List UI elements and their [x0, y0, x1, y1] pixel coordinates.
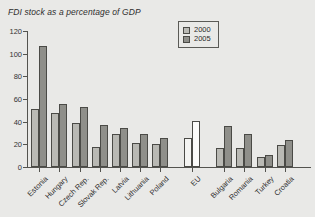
y-tick-label: 100: [9, 50, 22, 58]
bar-2005[interactable]: [80, 107, 88, 167]
x-tick: [192, 167, 193, 172]
bar-2005[interactable]: [265, 155, 273, 167]
bar-2000[interactable]: [92, 147, 100, 167]
bar-2000[interactable]: [216, 148, 224, 167]
x-tick: [80, 167, 81, 172]
chart-title: FDI stock as a percentage of GDP: [8, 7, 141, 17]
y-tick-label: 60: [14, 96, 22, 104]
bar-group: [91, 31, 109, 167]
x-tick: [100, 167, 101, 172]
bar-group: [50, 31, 68, 167]
legend-swatch-2005: [183, 36, 190, 43]
x-tick: [59, 167, 60, 172]
x-tick-label: Turkey: [253, 175, 275, 197]
x-tick-label: Poland: [149, 175, 171, 197]
bar-2000[interactable]: [184, 138, 192, 167]
legend-item-2005[interactable]: 2005: [183, 35, 211, 43]
x-tick-label: Croatia: [273, 175, 296, 198]
bar-2000[interactable]: [112, 134, 120, 167]
bar-2005[interactable]: [120, 128, 128, 167]
bar-2000[interactable]: [257, 157, 265, 167]
bar-2005[interactable]: [192, 121, 200, 167]
chart-legend: 2000 2005: [178, 21, 219, 48]
y-tick-label: 40: [14, 118, 22, 126]
bar-2005[interactable]: [285, 140, 293, 167]
bar-group: [276, 31, 294, 167]
x-axis-line: [27, 167, 311, 168]
x-tick-label: EU: [189, 175, 202, 188]
x-tick: [265, 167, 266, 172]
bar-2005[interactable]: [224, 126, 232, 167]
y-tick-label: 120: [9, 28, 22, 36]
bar-groups: [27, 31, 310, 167]
legend-item-2000[interactable]: 2000: [183, 26, 211, 34]
chart-figure: FDI stock as a percentage of GDP 0204060…: [0, 0, 315, 217]
bar-group: [183, 31, 201, 167]
x-tick: [39, 167, 40, 172]
x-tick: [285, 167, 286, 172]
bar-2005[interactable]: [39, 46, 47, 167]
bar-2000[interactable]: [132, 143, 140, 167]
bar-group: [151, 31, 169, 167]
bar-group: [256, 31, 274, 167]
bar-group: [71, 31, 89, 167]
legend-swatch-2000: [183, 27, 190, 34]
y-tick-label: 80: [14, 73, 22, 81]
legend-label-2000: 2000: [194, 26, 211, 34]
bar-group: [131, 31, 149, 167]
bar-2000[interactable]: [51, 113, 59, 167]
bar-2005[interactable]: [244, 134, 252, 167]
x-tick: [244, 167, 245, 172]
x-tick: [120, 167, 121, 172]
bar-2005[interactable]: [140, 134, 148, 167]
bar-2000[interactable]: [72, 123, 80, 167]
bar-2000[interactable]: [277, 145, 285, 167]
y-tick-label: 20: [14, 141, 22, 149]
bar-2000[interactable]: [236, 148, 244, 167]
bar-2005[interactable]: [160, 138, 168, 167]
bar-2000[interactable]: [31, 109, 39, 167]
bar-group: [111, 31, 129, 167]
y-tick: [23, 167, 27, 168]
legend-label-2005: 2005: [194, 35, 211, 43]
bar-2000[interactable]: [152, 144, 160, 167]
bar-2005[interactable]: [100, 125, 108, 167]
x-tick: [160, 167, 161, 172]
plot-area: [27, 31, 310, 167]
bar-group: [215, 31, 233, 167]
x-tick: [140, 167, 141, 172]
y-tick-label: 0: [18, 164, 22, 172]
bar-group: [30, 31, 48, 167]
bar-group: [235, 31, 253, 167]
bar-2005[interactable]: [59, 104, 67, 167]
x-tick: [224, 167, 225, 172]
